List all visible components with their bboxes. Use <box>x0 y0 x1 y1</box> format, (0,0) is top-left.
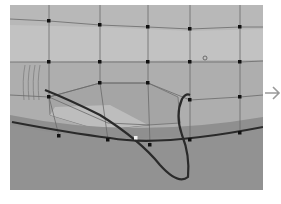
surface-render <box>10 5 263 190</box>
selected-control-point[interactable] <box>134 136 138 140</box>
surface-band <box>10 25 263 62</box>
3d-viewport[interactable] <box>10 5 263 190</box>
arrow-right-icon <box>264 85 281 101</box>
